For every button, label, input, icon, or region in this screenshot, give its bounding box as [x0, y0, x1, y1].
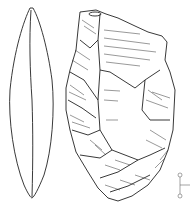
- scale-bar: [178, 173, 190, 198]
- side-profile-view: [10, 8, 54, 198]
- artifact-illustration: [0, 0, 191, 210]
- dorsal-face-view: [66, 10, 175, 201]
